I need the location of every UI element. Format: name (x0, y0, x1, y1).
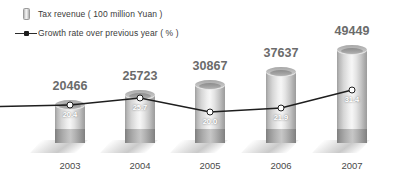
tax-revenue-growth-chart: Tax revenue ( 100 million Yuan ) Growth … (0, 0, 419, 177)
growth-rate-value-label: 20.4 (63, 110, 78, 119)
growth-rate-line-layer: 20.425.720.021.931.4 (0, 0, 419, 177)
growth-rate-marker[interactable] (137, 95, 143, 101)
growth-rate-marker[interactable] (349, 87, 355, 93)
growth-rate-value-label: 20.0 (203, 117, 218, 126)
growth-rate-line-lead-in (0, 105, 70, 107)
growth-rate-marker[interactable] (67, 102, 73, 108)
growth-rate-value-label: 21.9 (274, 113, 289, 122)
growth-rate-line-svg (0, 0, 419, 177)
growth-rate-value-label: 25.7 (133, 103, 148, 112)
growth-rate-marker[interactable] (207, 109, 213, 115)
growth-rate-marker[interactable] (278, 105, 284, 111)
growth-rate-value-label: 31.4 (345, 95, 360, 104)
